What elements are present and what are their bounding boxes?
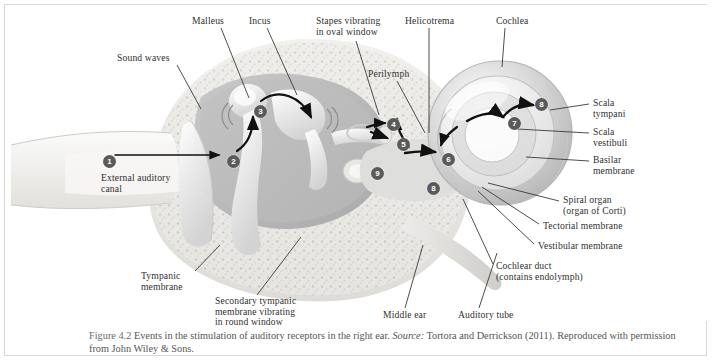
figure-caption: Figure 4.2 Events in the stimulation of … [89, 329, 689, 356]
label-scala-vestibuli: Scala vestibuli [593, 127, 627, 148]
step-marker-6: 6 [442, 153, 455, 166]
label-external-auditory-canal: External auditory canal [101, 173, 170, 194]
label-tympanic-membrane: Tympanic membrane [141, 271, 183, 292]
figure-caption-text: Events in the stimulation of auditory re… [134, 330, 390, 341]
label-sound-waves: Sound waves [117, 53, 170, 64]
label-vestibular-membrane: Vestibular membrane [538, 241, 623, 252]
label-basilar-membrane: Basilar membrane [593, 155, 635, 176]
label-secondary-tympanic-membrane: Secondary tympanic membrane vibrating in… [215, 296, 296, 328]
label-malleus: Malleus [192, 16, 224, 27]
label-stapes-oval-window: Stapes vibrating in oval window [316, 16, 380, 37]
step-marker-8: 8 [535, 98, 548, 111]
label-scala-tympani: Scala tympani [593, 98, 626, 119]
step-marker-4: 4 [387, 118, 400, 131]
label-middle-ear: Middle ear [383, 310, 426, 321]
label-cochlea: Cochlea [496, 16, 528, 27]
label-spiral-organ: Spiral organ (organ of Corti) [563, 195, 626, 216]
label-perilymph: Perilymph [368, 69, 409, 80]
step-marker-5: 5 [397, 138, 410, 151]
step-marker-2: 2 [227, 155, 240, 168]
label-tectorial-membrane: Tectorial membrane [543, 221, 623, 232]
label-cochlear-duct: Cochlear duct (contains endolymph) [496, 261, 583, 282]
step-marker-3: 3 [254, 105, 267, 118]
source-label: Source: [392, 330, 424, 341]
step-marker-1: 1 [103, 155, 116, 168]
label-auditory-tube: Auditory tube [458, 310, 514, 321]
figure-number: Figure 4.2 [89, 330, 131, 341]
step-marker-7: 7 [508, 117, 521, 130]
label-helicotrema: Helicotrema [405, 16, 454, 27]
step-marker-8b: 8 [427, 182, 440, 195]
figure-frame: Sound wavesMalleusIncusStapes vibrating … [4, 4, 707, 356]
step-marker-9: 9 [371, 167, 384, 180]
label-incus: Incus [249, 16, 271, 27]
